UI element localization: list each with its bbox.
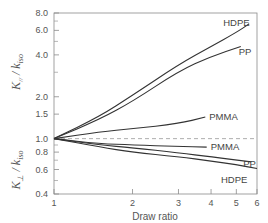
y-tick-label: 4.0 (35, 50, 48, 60)
y-tick-label: 2.0 (35, 92, 48, 102)
x-tick-label: 5 (234, 198, 239, 208)
series-label-hdpe-parallel: HDPE (223, 17, 249, 28)
x-tick-label: 2 (130, 198, 135, 208)
series-label-hdpe-perpendicular: HDPE (221, 174, 247, 185)
y-axis-titles: K// / kiso K⊥ / kiso (9, 54, 25, 190)
series-label-pmma-perpendicular: PMMA (211, 141, 240, 152)
x-tick-label: 6 (254, 198, 259, 208)
svg-text:K⊥ / kiso: K⊥ / kiso (9, 150, 25, 190)
svg-text:K// / kiso: K// / kiso (9, 54, 25, 91)
y-tick-label: 1.0 (35, 134, 48, 144)
x-tick-label: 1 (51, 198, 56, 208)
y-tick-label: 0.6 (35, 165, 48, 175)
series-label-pp-parallel: PP (239, 46, 252, 57)
y-tick-label: 8.0 (35, 8, 48, 18)
x-tick-label: 3 (176, 198, 181, 208)
series-label-pp-perpendicular: PP (243, 158, 256, 169)
chart: 0.40.60.81.01.52.04.06.08.0123456 HDPEPP… (0, 0, 268, 223)
y-tick-label: 1.5 (35, 109, 48, 119)
plot-frame (54, 13, 257, 194)
series-label-pmma-parallel: PMMA (209, 111, 238, 122)
y-tick-label: 0.8 (35, 147, 48, 157)
y-tick-label: 0.4 (35, 189, 48, 199)
x-tick-label: 4 (209, 198, 214, 208)
y-axis-title-perpendicular: K⊥ / kiso (9, 150, 25, 190)
y-tick-label: 6.0 (35, 25, 48, 35)
x-axis-title: Draw ratio (132, 211, 178, 222)
y-axis-title-parallel: K// / kiso (9, 54, 25, 91)
